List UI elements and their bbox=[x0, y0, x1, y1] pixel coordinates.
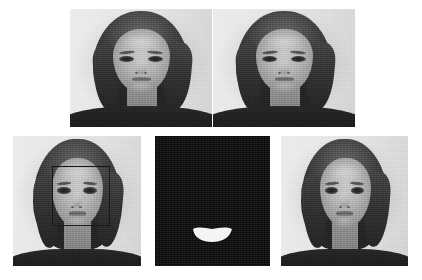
nostril-right bbox=[79, 206, 82, 208]
clothing-region bbox=[13, 249, 141, 266]
panel-face-detection-result bbox=[13, 136, 141, 266]
mouth-region bbox=[69, 211, 86, 216]
nostril-right bbox=[144, 72, 147, 74]
nostril-right bbox=[347, 206, 350, 208]
panel-output-portrait bbox=[281, 136, 408, 266]
clothing-region bbox=[213, 106, 355, 127]
clothing-region bbox=[281, 249, 408, 266]
mouth-region bbox=[336, 211, 353, 216]
nostril-left bbox=[71, 206, 74, 208]
nostril-left bbox=[339, 206, 342, 208]
nostril-left bbox=[135, 72, 138, 74]
forehead-highlight bbox=[327, 162, 364, 182]
eye-right bbox=[291, 56, 306, 62]
nostril-right bbox=[287, 72, 290, 74]
mouth-mask-region bbox=[193, 227, 232, 242]
panel-input-portrait-1 bbox=[70, 9, 212, 127]
chin-highlight bbox=[271, 83, 297, 92]
forehead-highlight bbox=[59, 162, 96, 182]
eye-left bbox=[57, 187, 70, 194]
eye-right bbox=[83, 187, 96, 194]
panel-mouth-segmentation-mask bbox=[155, 136, 270, 266]
chin-highlight bbox=[65, 218, 88, 228]
figure-canvas bbox=[0, 0, 422, 280]
eye-left bbox=[119, 56, 134, 62]
mouth-mask-shape-svg bbox=[155, 136, 270, 266]
clothing-region bbox=[70, 106, 212, 127]
panel-input-portrait-2 bbox=[213, 9, 355, 127]
eye-left bbox=[262, 56, 277, 62]
chin-highlight bbox=[128, 83, 154, 92]
eye-right bbox=[148, 56, 163, 62]
nostril-left bbox=[278, 72, 281, 74]
